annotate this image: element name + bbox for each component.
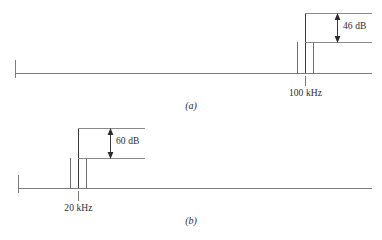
panel-b-db-label: 60 dB [116, 136, 139, 146]
spectrum-panel-b: 60 dB 20 kHz (b) [0, 120, 382, 240]
panel-a-dimension-arrow-up [335, 13, 341, 20]
panel-b-caption: (b) [0, 215, 382, 226]
spectrum-panel-a: 46 dB 100 kHz (a) [0, 0, 382, 120]
panel-a-dimension-arrow-down [335, 36, 341, 43]
panel-a-db-label: 46 dB [343, 21, 366, 31]
panel-a-frequency-label: 100 kHz [275, 88, 336, 98]
panel-b-frequency-label: 20 kHz [50, 203, 107, 213]
panel-b-dimension-arrow-up [108, 128, 114, 135]
panel-a-caption: (a) [0, 100, 382, 111]
panel-b-dimension-arrow-down [108, 152, 114, 159]
spectrum-figure: 46 dB 100 kHz (a) 60 dB [0, 0, 382, 240]
